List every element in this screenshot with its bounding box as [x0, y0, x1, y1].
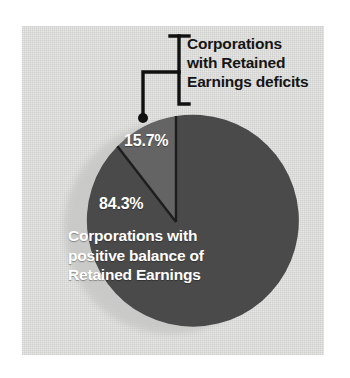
slice-percent-label-large: 84.3%	[99, 195, 143, 213]
slice-caption-positive-balance: Corporations with positive balance of Re…	[68, 226, 258, 285]
callout-label-line-3: Earnings deficits	[187, 72, 329, 91]
callout-label-line-2: with Retained	[187, 53, 329, 72]
callout-label-line-1: Corporations	[187, 34, 329, 53]
callout-leader-branch	[143, 72, 179, 116]
callout-label-deficits: Corporations with Retained Earnings defi…	[187, 34, 329, 91]
slice-caption-line-3: Retained Earnings	[68, 265, 258, 285]
slice-caption-line-1: Corporations with	[68, 226, 258, 246]
chart-figure: Corporations with Retained Earnings defi…	[0, 0, 350, 378]
slice-caption-line-2: positive balance of	[68, 246, 258, 266]
callout-leader-dot	[138, 113, 148, 123]
slice-percent-label-small: 15.7%	[124, 132, 168, 150]
